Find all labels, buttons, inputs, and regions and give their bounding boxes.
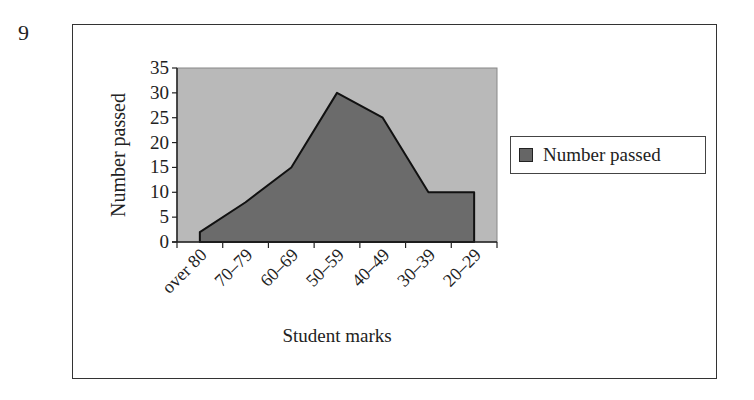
- y-axis: 05101520253035: [150, 57, 177, 252]
- x-tick-label: 20–29: [439, 245, 485, 291]
- y-tick-label: 25: [150, 107, 169, 128]
- x-axis: over 8070–7960–6950–5940–4930–3920–29: [158, 242, 497, 297]
- y-tick-label: 15: [150, 156, 169, 177]
- x-axis-label: Student marks: [282, 325, 391, 346]
- y-axis-label: Number passed: [107, 93, 130, 217]
- y-tick-label: 35: [150, 57, 169, 78]
- x-tick-label: 60–69: [256, 245, 302, 291]
- x-tick-label: 40–49: [348, 245, 394, 291]
- x-tick-label: 30–39: [393, 245, 439, 291]
- y-tick-label: 0: [160, 231, 170, 252]
- x-tick-label: 50–59: [302, 245, 348, 291]
- x-tick-label: 70–79: [210, 245, 256, 291]
- legend: Number passed: [510, 136, 706, 174]
- y-tick-label: 20: [150, 132, 169, 153]
- y-tick-label: 30: [150, 82, 169, 103]
- x-tick-label: over 80: [158, 245, 211, 298]
- legend-swatch-icon: [519, 148, 533, 162]
- y-tick-label: 10: [150, 181, 169, 202]
- y-tick-label: 5: [160, 206, 170, 227]
- legend-label: Number passed: [543, 144, 661, 166]
- area-chart: 05101520253035 over 8070–7960–6950–5940–…: [0, 0, 754, 400]
